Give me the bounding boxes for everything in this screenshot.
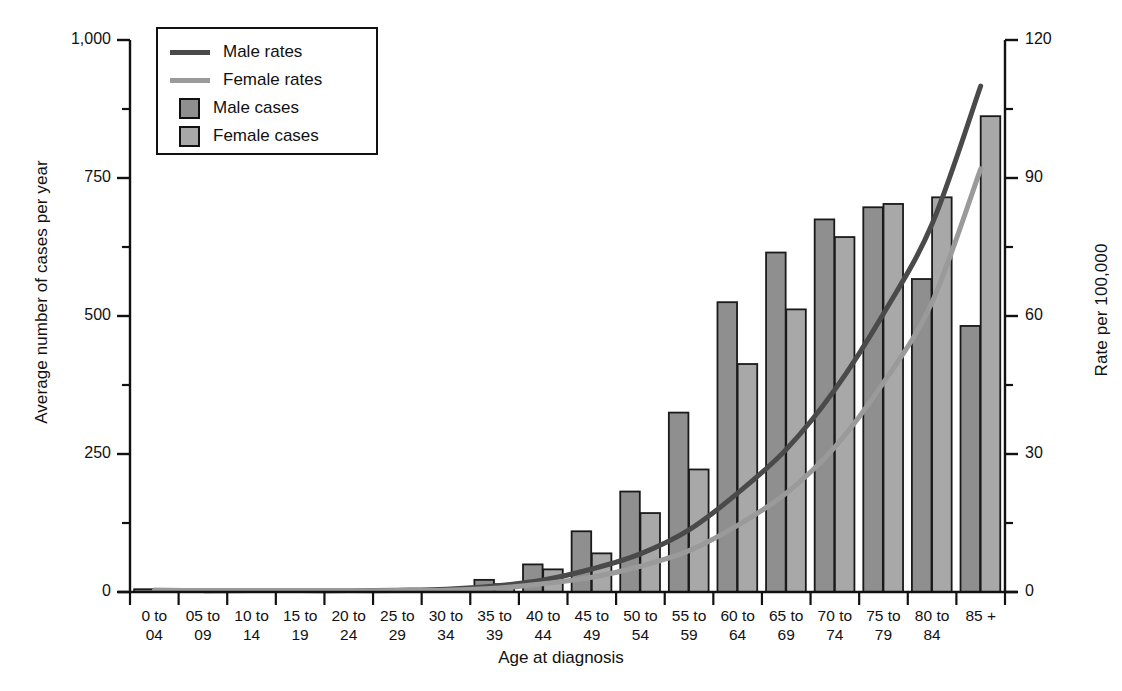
- y-tick-label-right: 90: [1025, 168, 1103, 186]
- x-tick-label-line1: 10 to: [234, 607, 268, 624]
- x-tick-label-line1: 25 to: [380, 607, 414, 624]
- bar: [883, 204, 903, 592]
- y-tick-label-left: 0: [33, 582, 111, 600]
- x-tick-label-line1: 05 to: [186, 607, 220, 624]
- legend-label: Female cases: [213, 126, 319, 146]
- x-tick-label-line1: 55 to: [672, 607, 706, 624]
- x-tick-label-line1: 65 to: [769, 607, 803, 624]
- y-tick-label-left: 250: [33, 444, 111, 462]
- x-tick-label-line1: 15 to: [283, 607, 317, 624]
- y-tick-label-right: 30: [1025, 444, 1103, 462]
- bar: [835, 237, 855, 592]
- x-tick-label-line1: 80 to: [915, 607, 949, 624]
- x-tick-label-line2: 74: [826, 626, 843, 643]
- legend-label: Male cases: [213, 98, 299, 118]
- legend-swatch-male-cases: [179, 98, 200, 119]
- x-tick-label-line2: 34: [437, 626, 454, 643]
- y-tick-label-left: 500: [33, 306, 111, 324]
- legend-item-male-cases: Male cases: [170, 94, 376, 122]
- x-tick-label-line2: 69: [778, 626, 795, 643]
- legend-item-female-rates: Female rates: [170, 66, 376, 94]
- bar: [766, 253, 786, 592]
- bar: [572, 531, 592, 592]
- x-tick-label-line2: 19: [292, 626, 309, 643]
- legend-line-male-rates: [170, 50, 210, 55]
- x-tick-label-line1: 85 +: [965, 607, 996, 624]
- bar: [620, 492, 640, 592]
- bar: [669, 413, 689, 592]
- rate-line: [154, 169, 980, 591]
- x-tick-label-line2: 79: [875, 626, 892, 643]
- x-tick-label-line2: 04: [146, 626, 163, 643]
- figure-chart: Average number of cases per year Rate pe…: [0, 0, 1122, 691]
- x-tick-label-line2: 49: [583, 626, 600, 643]
- x-tick-label: 85 +: [946, 606, 1015, 625]
- legend-label: Male rates: [223, 42, 302, 62]
- x-tick-label-line1: 75 to: [866, 607, 900, 624]
- x-tick-label-line1: 20 to: [332, 607, 366, 624]
- x-tick-label-line1: 35 to: [477, 607, 511, 624]
- rate-line: [154, 86, 980, 591]
- x-tick-label-line1: 0 to: [141, 607, 167, 624]
- legend-item-female-cases: Female cases: [170, 122, 376, 150]
- legend-swatch-female-cases: [179, 126, 200, 147]
- y-tick-label-right: 0: [1025, 582, 1103, 600]
- legend: Male rates Female rates Male cases Femal…: [156, 27, 378, 155]
- x-tick-label-line2: 54: [632, 626, 649, 643]
- x-tick-label-line2: 29: [389, 626, 406, 643]
- x-tick-label-line1: 40 to: [526, 607, 560, 624]
- legend-line-female-rates: [170, 78, 210, 83]
- y-tick-label-right: 60: [1025, 306, 1103, 324]
- x-tick-label-line2: 84: [923, 626, 940, 643]
- x-tick-label-line1: 45 to: [575, 607, 609, 624]
- bar: [717, 302, 737, 592]
- bar: [786, 309, 806, 592]
- y-tick-label-right: 120: [1025, 30, 1103, 48]
- x-tick-label-line2: 24: [340, 626, 357, 643]
- bar: [981, 116, 1001, 592]
- legend-label: Female rates: [223, 70, 322, 90]
- bar: [961, 326, 981, 592]
- y-tick-label-left: 750: [33, 168, 111, 186]
- x-tick-label-line2: 09: [194, 626, 211, 643]
- x-tick-label-line1: 50 to: [623, 607, 657, 624]
- x-tick-label-line2: 59: [680, 626, 697, 643]
- x-tick-label-line2: 64: [729, 626, 746, 643]
- legend-item-male-rates: Male rates: [170, 38, 376, 66]
- x-tick-label-line2: 14: [243, 626, 260, 643]
- x-tick-label-line1: 60 to: [720, 607, 754, 624]
- x-tick-label-line1: 70 to: [818, 607, 852, 624]
- x-tick-label-line2: 39: [486, 626, 503, 643]
- x-tick-label-line2: 44: [535, 626, 552, 643]
- x-tick-label-line1: 30 to: [429, 607, 463, 624]
- y-tick-label-left: 1,000: [33, 30, 111, 48]
